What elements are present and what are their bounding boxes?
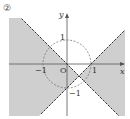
shaded-left-region (9, 6, 79, 119)
tick-label-y-pos: 1 (60, 33, 65, 42)
origin-label: O (60, 66, 67, 75)
y-axis-arrow-icon (65, 13, 69, 18)
shaded-right-region (79, 6, 130, 119)
tick-label-x-neg: −1 (35, 66, 47, 75)
x-axis-label: x (120, 67, 125, 76)
tick-label-x-pos: 1 (92, 66, 97, 75)
inequality-region-diagram: ② y x O 1 −1 1 −1 (0, 0, 130, 119)
y-axis-label: y (58, 10, 64, 19)
tick-label-y-neg: −1 (69, 89, 81, 98)
problem-number-label: ② (3, 3, 11, 13)
